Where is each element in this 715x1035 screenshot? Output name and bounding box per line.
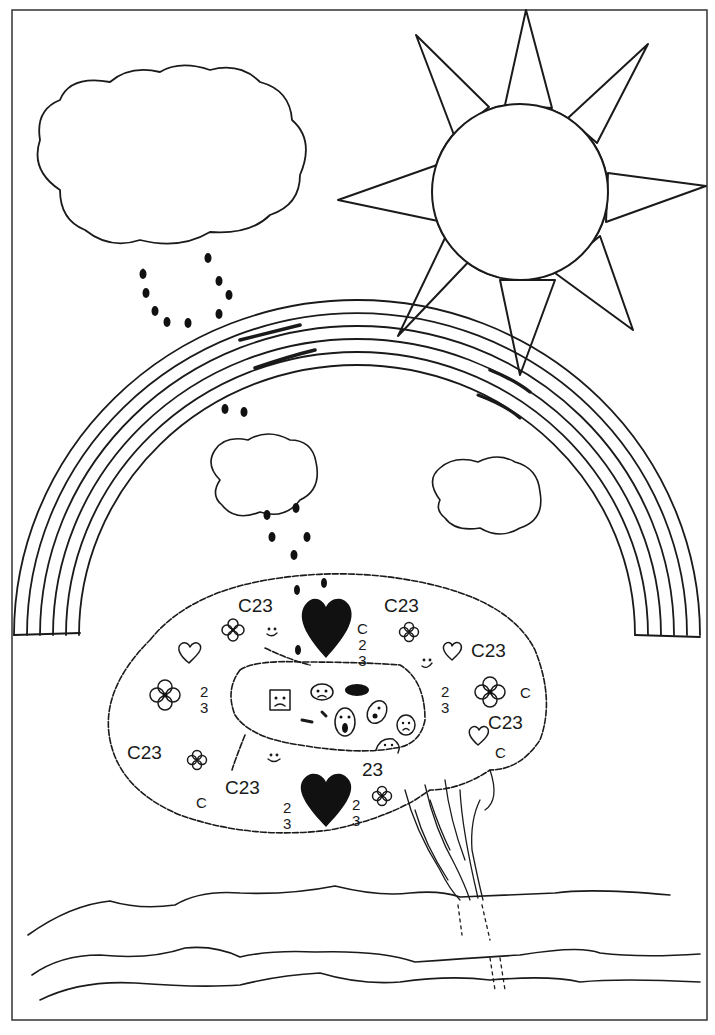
label-c-right-bottom: C [495, 745, 506, 760]
wave-2 [32, 947, 700, 975]
raindrops-big-cloud [140, 253, 248, 417]
drawing-svg [0, 0, 715, 1035]
sun-icon [338, 10, 706, 375]
dark-blob-icon [345, 684, 369, 696]
big-cloud-icon [38, 65, 306, 243]
label-c23-top-right: C23 [384, 596, 419, 615]
label-23-stack-bottom-right: 2 3 [352, 797, 360, 829]
waves [28, 886, 700, 1000]
label-c23-right-lower: C23 [488, 713, 523, 732]
label-23-stack-right: 2 3 [441, 684, 449, 716]
label-c23-stack-center: C 2 3 [357, 621, 368, 669]
label-c23-left-lower: C23 [127, 743, 162, 762]
label-23-stack-bottom-left: 2 3 [283, 800, 291, 832]
label-c23-right-upper: C23 [471, 641, 506, 660]
small-cloud-left-icon [211, 434, 317, 516]
label-23-stack-left: 2 3 [200, 684, 208, 716]
drawing-canvas: C23C23C23C23C23C2323CCCC 2 32 32 32 32 3 [0, 0, 715, 1035]
label-c-right-edge: C [520, 685, 531, 700]
wave-1 [28, 886, 670, 935]
wave-3 [40, 973, 700, 1000]
label-num-23-center: 23 [362, 760, 383, 779]
label-c-bottom-left: C [196, 795, 207, 810]
label-c23-bottom-left: C23 [225, 778, 260, 797]
label-c23-top-left: C23 [238, 596, 273, 615]
small-cloud-right-icon [433, 457, 541, 534]
